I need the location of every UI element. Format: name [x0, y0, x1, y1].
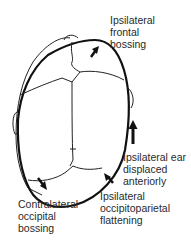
label-line: frontal — [110, 26, 155, 38]
label-line: occipital — [18, 210, 78, 222]
label-line: Contralateral — [18, 198, 78, 210]
label-line: Ipsilateral ear — [123, 151, 186, 163]
metopic-suture — [71, 42, 80, 72]
label-line: flattening — [100, 214, 170, 226]
label-occipitoparietal-flattening: Ipsilateral occipitoparietal flattening — [100, 190, 170, 226]
label-line: bossing — [110, 38, 155, 50]
label-frontal-bossing: Ipsilateral frontal bossing — [110, 14, 155, 50]
normal-skull-outline — [16, 38, 70, 195]
label-line: Ipsilateral — [100, 190, 170, 202]
arrow-frontal-bossing-icon — [91, 46, 99, 57]
label-line: bossing — [18, 222, 78, 234]
label-line: displaced — [123, 163, 186, 175]
label-contralateral-occipital-bossing: Contralateral occipital bossing — [18, 198, 78, 234]
label-line: anteriorly — [123, 175, 186, 187]
sagittal-suture — [70, 82, 73, 166]
label-ear-displaced: Ipsilateral ear displaced anteriorly — [123, 151, 186, 187]
label-line: Ipsilateral — [110, 14, 155, 26]
label-line: occipitoparietal — [100, 202, 170, 214]
arrow-ear-displaced-icon — [129, 120, 138, 144]
